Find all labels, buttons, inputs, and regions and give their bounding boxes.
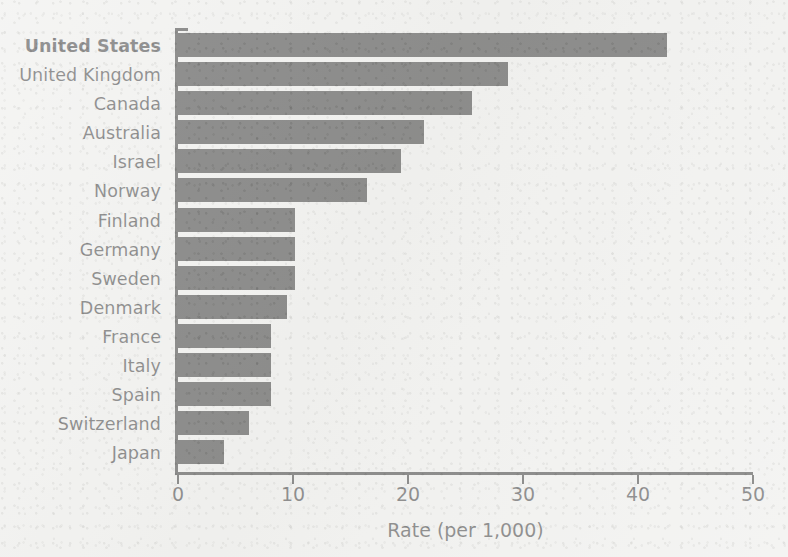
- x-axis-tick-label: 50: [741, 483, 765, 505]
- category-label: United Kingdom: [0, 62, 170, 91]
- bar-row: [178, 295, 753, 324]
- category-label: Japan: [0, 440, 170, 469]
- x-axis-tick-label: 0: [172, 483, 184, 505]
- category-label: Sweden: [0, 266, 170, 295]
- bar: [178, 208, 295, 232]
- category-label: Israel: [0, 149, 170, 178]
- bar-row: [178, 382, 753, 411]
- bar-row: [178, 353, 753, 382]
- x-axis-title: Rate (per 1,000): [178, 519, 753, 541]
- bar: [178, 149, 401, 173]
- bar-row: [178, 208, 753, 237]
- y-axis-top-tick: [175, 28, 188, 31]
- bar: [178, 411, 249, 435]
- x-axis-tick-label: 10: [281, 483, 305, 505]
- bar-row: [178, 178, 753, 207]
- bar: [178, 178, 367, 202]
- category-label: Norway: [0, 178, 170, 207]
- bar-row: [178, 237, 753, 266]
- x-axis-line: [175, 472, 753, 475]
- bar-row: [178, 120, 753, 149]
- category-axis-labels: United StatesUnited KingdomCanadaAustral…: [0, 33, 170, 470]
- x-axis-tick-label: 40: [626, 483, 650, 505]
- bar: [178, 382, 271, 406]
- category-label: Italy: [0, 353, 170, 382]
- bar: [178, 295, 287, 319]
- bar-row: [178, 62, 753, 91]
- bar-row: [178, 411, 753, 440]
- x-axis-tick-label: 30: [511, 483, 535, 505]
- category-label: Australia: [0, 120, 170, 149]
- bar-row: [178, 91, 753, 120]
- bar: [178, 353, 271, 377]
- bar: [178, 324, 271, 348]
- category-label: Switzerland: [0, 411, 170, 440]
- bar: [178, 120, 424, 144]
- category-label: Spain: [0, 382, 170, 411]
- category-label: France: [0, 324, 170, 353]
- bar: [178, 33, 667, 57]
- category-label: Finland: [0, 208, 170, 237]
- bar: [178, 91, 472, 115]
- bar-row: [178, 324, 753, 353]
- bar-row: [178, 440, 753, 469]
- bar: [178, 62, 508, 86]
- category-label: Canada: [0, 91, 170, 120]
- bar-series: [178, 33, 753, 470]
- bar-row: [178, 33, 753, 62]
- category-label: United States: [0, 33, 170, 62]
- bar-row: [178, 149, 753, 178]
- bar-row: [178, 266, 753, 295]
- plot-area: Rate (per 1,000) 01020304050: [178, 31, 753, 472]
- bar: [178, 266, 295, 290]
- bar: [178, 440, 224, 464]
- bar-chart-figure: United StatesUnited KingdomCanadaAustral…: [0, 0, 788, 557]
- category-label: Germany: [0, 237, 170, 266]
- bar: [178, 237, 295, 261]
- category-label: Denmark: [0, 295, 170, 324]
- x-axis-tick-label: 20: [396, 483, 420, 505]
